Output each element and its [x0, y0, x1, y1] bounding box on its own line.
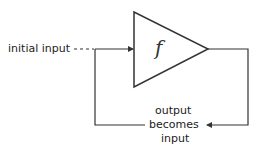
output-line	[207, 49, 248, 125]
feedback-loop-diagram	[0, 0, 259, 155]
function-block-triangle	[134, 12, 208, 87]
initial-input-label: initial input	[8, 42, 70, 55]
function-label: f	[155, 36, 162, 60]
feedback-label-line3: input	[161, 132, 189, 145]
feedback-return-line	[95, 49, 145, 125]
feedback-label-line2: becomes	[149, 118, 199, 131]
feedback-label-line1: output	[155, 104, 191, 117]
